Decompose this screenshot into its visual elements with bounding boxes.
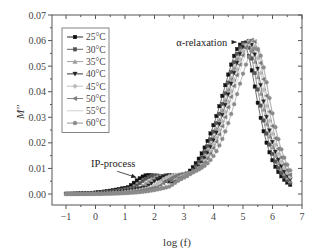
y-tick-label: 0.00 [29, 189, 47, 200]
legend: 25°C30°C35°C40°C45°C50°C55°C60°C [62, 28, 109, 132]
y-axis-label: M'' [14, 104, 26, 120]
arrow-icon [131, 174, 136, 178]
y-tick-label: 0.04 [29, 86, 47, 97]
x-tick-label: 0 [93, 211, 98, 222]
x-tick-label: 2 [152, 211, 157, 222]
arrow-icon [232, 40, 237, 44]
x-tick-label: 1 [123, 211, 128, 222]
y-tick-label: 0.02 [29, 137, 47, 148]
y-tick-label: 0.01 [29, 163, 47, 174]
y-tick-label: 0.05 [29, 61, 47, 72]
x-tick-label: 4 [211, 211, 216, 222]
legend-label: 50°C [86, 94, 106, 104]
annotation-label: IP-process [91, 158, 135, 169]
x-tick-label: 6 [270, 211, 275, 222]
x-tick-label: 7 [300, 211, 305, 222]
legend-label: 30°C [86, 45, 106, 55]
legend-label: 35°C [86, 57, 106, 67]
legend-label: 60°C [86, 118, 106, 128]
y-tick-label: 0.07 [29, 10, 47, 21]
y-tick-label: 0.03 [29, 112, 47, 123]
legend-label: 40°C [86, 69, 106, 79]
legend-label: 25°C [86, 32, 106, 42]
legend-label: 45°C [86, 82, 106, 92]
annotation-label: α-relaxation [176, 37, 228, 48]
x-axis-label: log (f) [163, 236, 191, 249]
x-tick-label: 3 [182, 211, 187, 222]
x-tick-label: −1 [61, 211, 72, 222]
y-tick-label: 0.06 [29, 35, 47, 46]
legend-label: 55°C [86, 106, 106, 116]
x-tick-label: 5 [241, 211, 246, 222]
chart-figure: −1012345670.000.010.020.030.040.050.060.… [0, 0, 317, 251]
